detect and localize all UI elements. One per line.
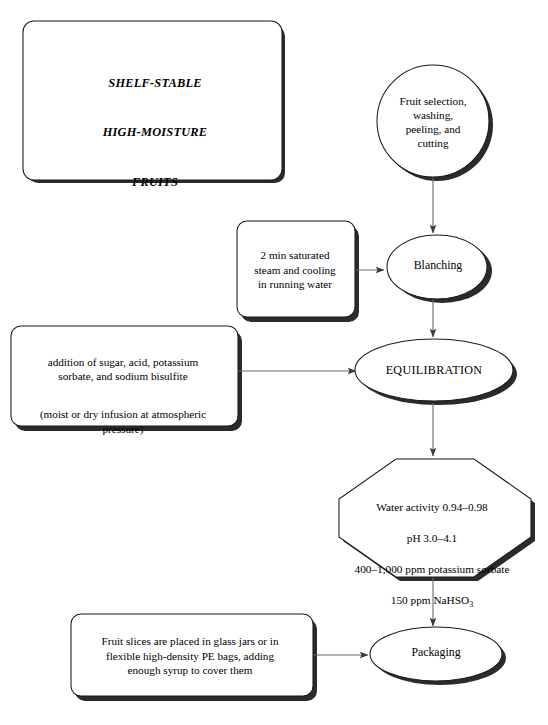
blanching-shape [387, 235, 487, 299]
blanching-treatment-shape [237, 221, 355, 317]
fruit-selection-shape [377, 65, 489, 177]
flowchart-shapes [0, 0, 548, 725]
title-panel-shape [23, 21, 282, 180]
shape-outlines [11, 21, 531, 696]
packaging-shape [370, 627, 502, 681]
equilibration-shape [355, 339, 513, 401]
flowchart-canvas: SHELF-STABLE HIGH-MOISTURE FRUITS Fruit … [0, 0, 548, 725]
additions-shape [11, 326, 238, 426]
packaging-detail-shape [71, 614, 313, 696]
